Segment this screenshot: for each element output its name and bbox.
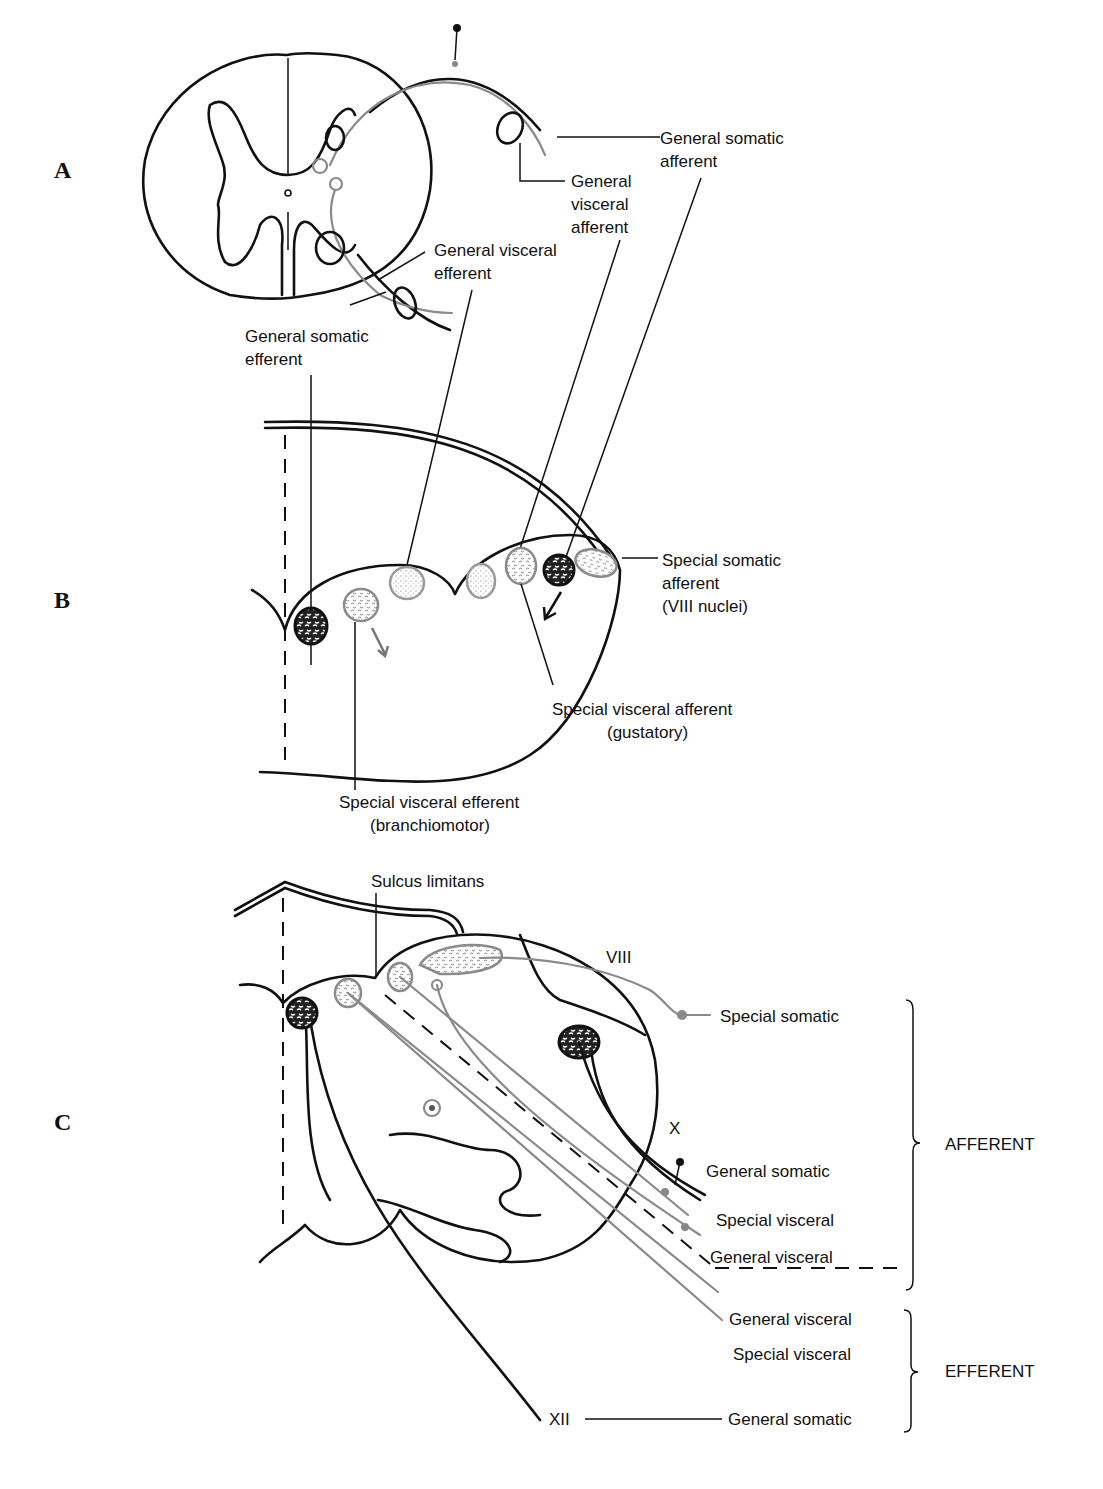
label-viii: VIII xyxy=(606,948,632,967)
viii-fiber xyxy=(480,958,710,1015)
label-sve: Special visceral efferent (branchiomotor… xyxy=(339,793,524,835)
gv-efferent-fiber xyxy=(350,995,722,1320)
label-gve: General visceral efferent xyxy=(434,241,562,283)
label-afferent: AFFERENT xyxy=(945,1135,1035,1154)
dorsal-root-ganglion xyxy=(492,108,527,147)
label-c-general-somatic-eff: General somatic xyxy=(728,1410,852,1429)
ganglion-cell-gray xyxy=(452,61,458,67)
efferent-brace xyxy=(904,1310,918,1432)
dorsal-root xyxy=(370,79,540,130)
label-xii: XII xyxy=(549,1410,570,1429)
sv-afferent-fiber xyxy=(400,977,688,1215)
label-c-special-visceral-aff: Special visceral xyxy=(716,1211,834,1230)
label-c-general-visceral-aff: General visceral xyxy=(710,1248,833,1267)
gv-afferent-fiber xyxy=(437,985,700,1235)
gva-neuron xyxy=(313,159,327,173)
label-efferent: EFFERENT xyxy=(945,1362,1035,1381)
gva-nucleus xyxy=(467,564,495,598)
sva-nucleus xyxy=(506,548,536,584)
label-sva: Special visceral afferent (gustatory) xyxy=(552,700,737,742)
central-canal xyxy=(285,190,291,196)
dorsal-root-gray-fiber xyxy=(330,83,545,165)
label-gva: General visceral afferent xyxy=(571,172,636,237)
label-ssa: Special somatic afferent (VIII nuclei) xyxy=(662,551,786,616)
dorsal-horn-neuron xyxy=(326,126,344,150)
medulla-outline xyxy=(240,935,657,1262)
label-c-special-visceral-eff: Special visceral xyxy=(733,1345,851,1364)
gve-neuron xyxy=(330,178,342,190)
label-x: X xyxy=(669,1119,680,1138)
sulcus-limitans-dashed xyxy=(385,995,715,1268)
label-sulcus-limitans: Sulcus limitans xyxy=(371,872,484,891)
panel-b: B Special somatic afferent (VIII nuclei)… xyxy=(54,422,786,835)
olive-outline xyxy=(390,1134,540,1216)
viii-nucleus xyxy=(420,945,502,974)
sve-nucleus xyxy=(344,589,378,621)
ssa-nucleus xyxy=(572,545,619,581)
label-c-general-somatic-aff: General somatic xyxy=(706,1162,830,1181)
gse-nucleus xyxy=(295,608,327,644)
label-c-special-somatic: Special somatic xyxy=(720,1007,840,1026)
xii-fiber xyxy=(311,1025,540,1420)
label-c-general-visceral-eff: General visceral xyxy=(729,1310,852,1329)
gve-nucleus xyxy=(390,567,424,599)
xii-nucleus xyxy=(287,998,317,1028)
panel-c: C Special xyxy=(54,872,1035,1432)
label-gse: General somatic efferent xyxy=(245,327,374,369)
panel-label-b: B xyxy=(54,587,70,613)
panel-label-a: A xyxy=(54,157,72,183)
gsa-nucleus xyxy=(544,555,574,585)
panel-label-c: C xyxy=(54,1109,71,1135)
afferent-brace xyxy=(906,1000,920,1290)
label-gsa: General somatic afferent xyxy=(660,129,789,171)
diagram-canvas: A General somatic afferent G xyxy=(0,0,1103,1489)
